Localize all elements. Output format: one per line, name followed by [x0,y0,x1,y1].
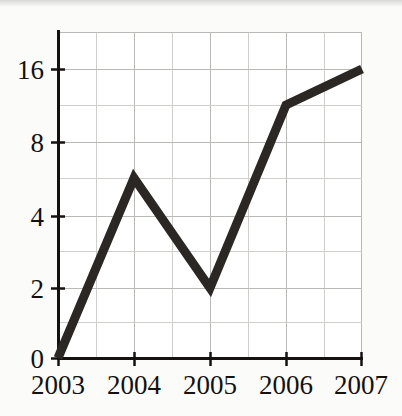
x-tick-label-2004: 2004 [107,370,162,400]
y-tick-label-2: 2 [31,274,45,304]
y-tick-label-4: 4 [31,202,45,232]
x-tick-label-2003: 2003 [31,370,85,400]
x-tick-label-2005: 2005 [183,370,237,400]
x-tick-label-2007: 2007 [334,370,388,400]
line-chart-figure: 0 2 4 8 16 2003 2004 2005 2006 2007 [0,0,402,416]
y-tick-label-8: 8 [31,128,45,158]
chart-canvas: 0 2 4 8 16 2003 2004 2005 2006 2007 [0,0,402,416]
y-tick-label-16: 16 [17,55,44,85]
x-tick-label-2006: 2006 [259,370,313,400]
